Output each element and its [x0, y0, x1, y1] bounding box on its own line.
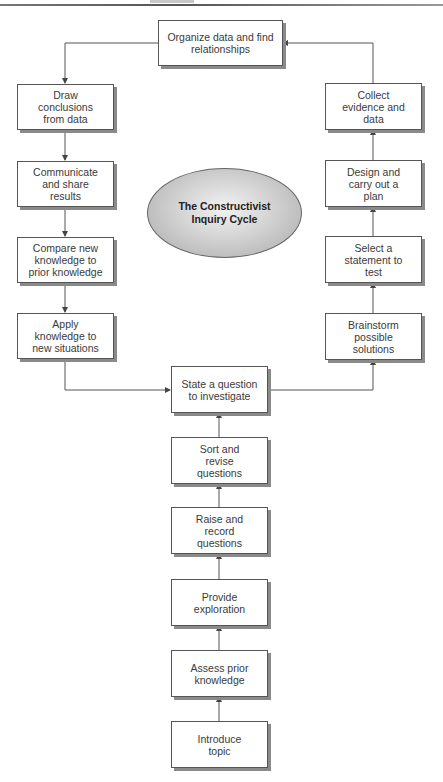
- step-label: Collect evidence and data: [339, 89, 407, 125]
- step-state-question: State a question to investigate: [171, 366, 268, 413]
- step-label: Design and carry out a plan: [344, 166, 403, 202]
- step-label: Introduce topic: [195, 733, 245, 757]
- step-draw-conclusions: Draw conclusions from data: [17, 84, 114, 130]
- step-raise-record-questions: Raise and record questions: [171, 507, 268, 554]
- step-label: State a question to investigate: [179, 378, 261, 402]
- step-label: Draw conclusions from data: [35, 89, 96, 125]
- step-label: Assess prior knowledge: [188, 662, 252, 686]
- step-introduce-topic: Introduce topic: [171, 721, 268, 768]
- step-assess-prior-knowledge: Assess prior knowledge: [171, 650, 268, 697]
- step-collect-evidence: Collect evidence and data: [325, 83, 422, 130]
- step-design-plan: Design and carry out a plan: [325, 160, 422, 207]
- step-label: Select a statement to test: [342, 242, 406, 278]
- step-label: Organize data and find relationships: [164, 31, 276, 55]
- step-brainstorm-solutions: Brainstorm possible solutions: [325, 313, 422, 360]
- step-label: Apply knowledge to new situations: [29, 318, 102, 354]
- step-organize-data: Organize data and find relationships: [158, 20, 283, 66]
- cycle-title-ellipse: The Constructivist Inquiry Cycle: [147, 168, 302, 258]
- step-select-statement: Select a statement to test: [325, 236, 422, 283]
- step-label: Communicate and share results: [30, 166, 101, 202]
- step-label: Compare new knowledge to prior knowledge: [25, 242, 105, 278]
- step-apply-knowledge: Apply knowledge to new situations: [17, 313, 114, 359]
- step-provide-exploration: Provide exploration: [171, 579, 268, 626]
- cycle-title: The Constructivist Inquiry Cycle: [178, 200, 270, 226]
- step-label: Sort and revise questions: [194, 443, 245, 479]
- step-label: Raise and record questions: [193, 513, 246, 549]
- step-label: Provide exploration: [191, 591, 248, 615]
- step-communicate-results: Communicate and share results: [17, 161, 114, 207]
- step-label: Brainstorm possible solutions: [345, 319, 402, 355]
- step-compare-knowledge: Compare new knowledge to prior knowledge: [17, 237, 114, 283]
- step-sort-revise-questions: Sort and revise questions: [171, 437, 268, 484]
